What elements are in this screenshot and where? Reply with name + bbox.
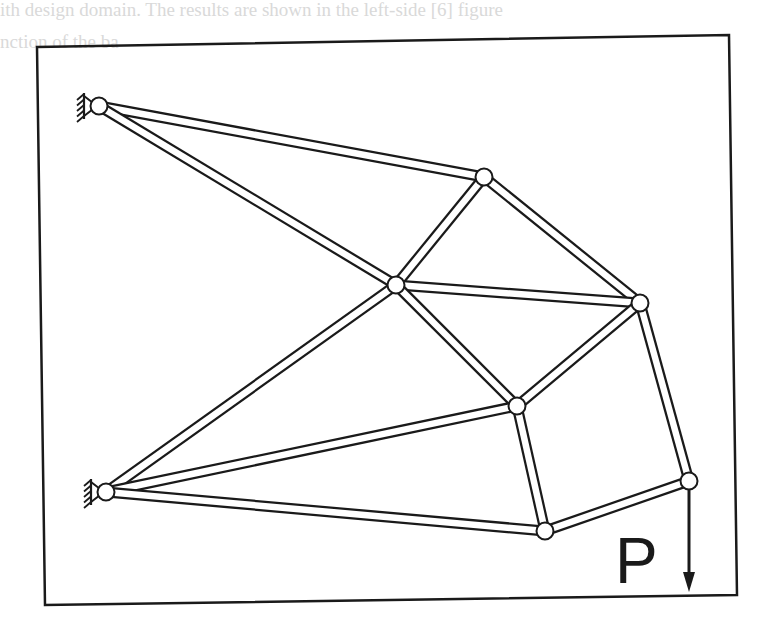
node-F xyxy=(509,398,526,415)
node-H xyxy=(537,523,554,540)
member-CD xyxy=(396,177,484,285)
truss-members xyxy=(99,106,689,531)
node-G xyxy=(681,473,698,490)
load-arrow-icon xyxy=(683,490,695,592)
member-HG xyxy=(545,481,689,531)
member-DE xyxy=(396,285,640,303)
member-EF xyxy=(517,303,640,406)
node-C xyxy=(476,169,493,186)
node-D xyxy=(388,277,405,294)
member-BH xyxy=(106,492,545,531)
load-label: P xyxy=(615,525,658,597)
truss-diagram: P xyxy=(0,0,765,630)
member-DF xyxy=(396,285,517,406)
supports xyxy=(77,93,104,508)
member-FH xyxy=(517,406,545,531)
node-A xyxy=(91,98,108,115)
member-EG xyxy=(640,303,689,481)
member-CE xyxy=(484,177,640,303)
node-B xyxy=(98,484,115,501)
node-E xyxy=(632,295,649,312)
